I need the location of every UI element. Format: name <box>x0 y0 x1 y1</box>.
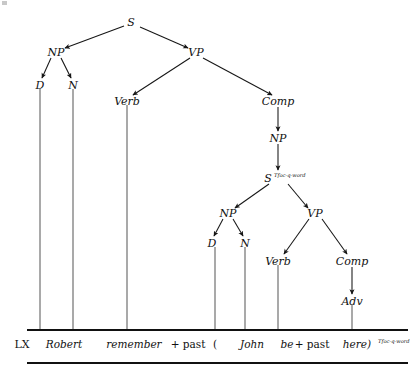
branch-s-to-np <box>65 26 124 48</box>
lexical-item-be-group: be + past <box>281 338 331 350</box>
lexical-item-john: John <box>238 338 264 350</box>
branch-np-to-n-upper <box>61 58 71 78</box>
branch-group-upper <box>42 26 278 170</box>
branch-vp-to-comp-upper <box>203 58 272 95</box>
tree-canvas: S NP D N VP Verb Comp NP S Tfoc-q-word N… <box>0 0 417 370</box>
branch-np-to-n-lower <box>233 219 243 236</box>
branch-s-to-vp-lower <box>288 184 308 208</box>
node-comp-lower: Comp <box>336 255 369 268</box>
lexical-row-marker: LX <box>14 338 29 351</box>
node-adv-lower: Adv <box>340 295 363 308</box>
node-np-lower: NP <box>218 207 237 220</box>
page-speck <box>2 1 7 5</box>
branch-vp-to-comp-lower <box>322 219 347 254</box>
lexical-item-here-group: here) Tfoc-q-word <box>343 338 410 350</box>
lexical-item-here-superscript: Tfoc-q-word <box>378 338 410 345</box>
node-d-lower: D <box>207 237 217 250</box>
node-n-lower: N <box>239 237 250 250</box>
node-comp-upper: Comp <box>262 95 295 108</box>
node-s-embedded-superscript: Tfoc-q-word <box>274 172 306 179</box>
node-n-upper: N <box>67 79 78 92</box>
node-verb-upper: Verb <box>114 95 140 108</box>
branch-np-to-d-lower <box>214 219 223 236</box>
lexical-item-open-paren: ( <box>213 338 217 350</box>
syntax-tree-figure: S NP D N VP Verb Comp NP S Tfoc-q-word N… <box>0 0 417 370</box>
lexical-item-be: be <box>281 338 294 350</box>
node-s-embedded-group: S Tfoc-q-word <box>264 172 306 185</box>
branch-s-to-vp <box>140 27 188 48</box>
node-s-root: S <box>127 16 135 29</box>
branch-group-lower <box>214 184 352 294</box>
branch-vp-to-verb-lower <box>284 219 309 254</box>
node-vp-lower: VP <box>307 207 323 220</box>
lexical-item-remember-group: remember + past <box>106 338 206 350</box>
branch-vp-to-verb-upper <box>133 58 190 95</box>
branch-np-to-d-upper <box>42 58 51 78</box>
node-vp-upper: VP <box>188 46 204 59</box>
node-np-subject: NP <box>46 46 65 59</box>
branch-s-to-np-lower <box>235 184 269 208</box>
lexical-item-remember-suffix: + past <box>171 338 207 350</box>
terminal-stems <box>40 89 352 330</box>
lexical-item-be-suffix: + past <box>295 338 331 350</box>
node-verb-lower: Verb <box>265 255 291 268</box>
lexical-item-remember: remember <box>106 338 162 350</box>
node-d-upper: D <box>35 79 45 92</box>
lexical-item-robert: Robert <box>45 338 83 350</box>
lexical-item-here: here) <box>343 338 371 350</box>
node-np-embedded: NP <box>268 132 287 145</box>
node-s-embedded: S <box>264 172 272 185</box>
